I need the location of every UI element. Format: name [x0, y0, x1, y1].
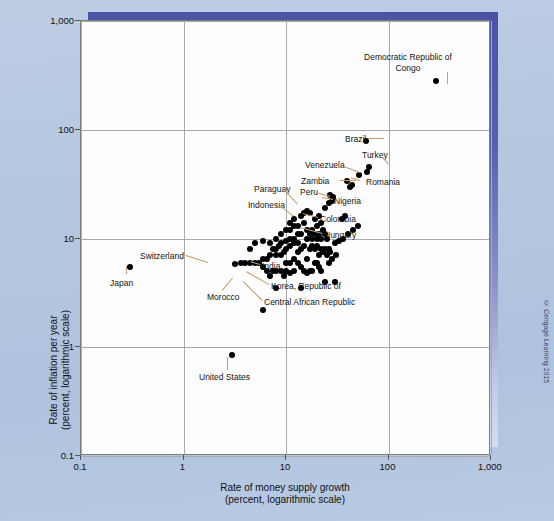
data-point [327, 249, 333, 255]
data-point [304, 256, 310, 262]
data-point [260, 238, 266, 244]
y-tick-mark [75, 129, 80, 130]
point-label: Zambia [301, 176, 329, 186]
y-tick-mark [75, 238, 80, 239]
point-label: Democratic Republic of [353, 52, 463, 62]
y-axis-title: Rate of inflation per year (percent, log… [48, 270, 72, 470]
data-point [278, 231, 284, 237]
point-label: Hungary [324, 230, 356, 240]
gridline-vertical [389, 21, 390, 454]
point-label: Switzerland [140, 251, 184, 261]
x-tick-mark [388, 455, 389, 460]
data-point [301, 220, 307, 226]
data-point [273, 252, 279, 258]
data-point [247, 246, 253, 252]
point-label: Nigeria [334, 196, 361, 206]
data-point [287, 220, 293, 226]
data-point [238, 260, 244, 266]
gridline-horizontal [81, 347, 489, 348]
x-tick-label: 100 [380, 461, 396, 472]
point-label: Central African Republic [264, 297, 355, 307]
x-tick-mark [80, 455, 81, 460]
point-label: United States [199, 372, 250, 382]
y-tick-mark [75, 20, 80, 21]
copyright-notice: © Cengage Learning 2015 [543, 300, 550, 383]
point-label: Venezuela [305, 160, 345, 170]
gridline-vertical [491, 21, 492, 454]
x-tick-mark [285, 455, 286, 460]
x-axis-title: Rate of money supply growth (percent, lo… [80, 482, 490, 506]
y-axis-title-line1: Rate of inflation per year [48, 270, 60, 470]
data-point [260, 307, 266, 313]
data-point [267, 240, 273, 246]
data-point [356, 172, 362, 178]
point-label: Brazil [345, 134, 366, 144]
point-label: Indonesia [248, 200, 285, 210]
point-label: Romania [366, 177, 400, 187]
label-leader-line [340, 180, 356, 181]
point-label: Morocco [207, 292, 240, 302]
x-tick-label: 1,000 [478, 461, 502, 472]
data-point [229, 352, 235, 358]
data-point [333, 252, 339, 258]
point-label: India [262, 261, 280, 271]
x-tick-mark [490, 455, 491, 460]
point-label: Japan [110, 278, 133, 288]
y-tick-label: 100 [38, 123, 74, 134]
point-label: Colombia [320, 214, 356, 224]
data-point [318, 268, 324, 274]
data-point [349, 182, 355, 188]
x-tick-label: 0.1 [73, 461, 86, 472]
data-point [232, 261, 238, 267]
scatter-plot-figure: 0.11101001,0001,0001001010.1 Democratic … [0, 0, 554, 521]
x-axis-title-line1: Rate of money supply growth [80, 482, 490, 494]
x-tick-mark [183, 455, 184, 460]
plot-area [80, 20, 490, 455]
data-point [267, 273, 273, 279]
x-tick-label: 1 [180, 461, 185, 472]
y-tick-mark [75, 455, 80, 456]
y-axis-title-wrapper: Rate of inflation per year (percent, log… [22, 140, 46, 340]
gridline-horizontal [81, 21, 489, 22]
x-tick-label: 10 [280, 461, 291, 472]
data-point [252, 240, 258, 246]
data-point [295, 260, 301, 266]
gridline-vertical [184, 21, 185, 454]
gridline-horizontal [81, 130, 489, 131]
data-point [322, 205, 328, 211]
data-point [270, 246, 276, 252]
y-tick-mark [75, 346, 80, 347]
label-leader-line [126, 266, 127, 274]
data-point [433, 78, 439, 84]
label-leader-line [368, 138, 384, 139]
y-axis-title-line2: (percent, logarithmic scale) [60, 270, 72, 470]
data-point [273, 236, 279, 242]
data-point [278, 252, 284, 258]
data-point [127, 264, 133, 270]
label-leader-line [227, 357, 228, 370]
gridline-vertical [81, 21, 82, 454]
point-label: Korea, Republic of [271, 281, 341, 291]
x-axis-title-line2: (percent, logarithmic scale) [80, 494, 490, 506]
data-point [364, 169, 370, 175]
label-leader-line [447, 72, 448, 84]
y-tick-label: 1,000 [38, 15, 74, 26]
